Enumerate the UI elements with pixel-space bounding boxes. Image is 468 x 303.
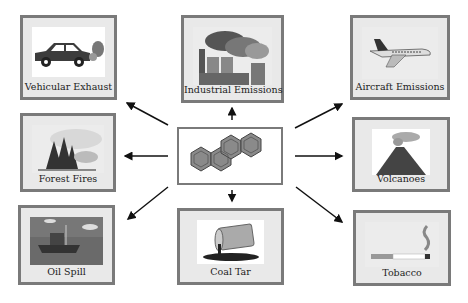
source-box-vehicular-exhaust: Vehicular Exhaust <box>20 15 117 100</box>
source-box-oil-spill: Oil Spill <box>18 205 115 285</box>
oil-ship-icon <box>30 217 103 265</box>
source-label: Volcanoes <box>355 173 447 184</box>
source-label: Aircraft Emissions <box>353 81 447 92</box>
airplane-icon <box>362 27 438 79</box>
source-box-forest-fires: Forest Fires <box>20 113 116 192</box>
source-label: Coal Tar <box>180 266 281 277</box>
source-box-tobacco: Tobacco <box>353 210 451 286</box>
source-label: Tobacco <box>356 267 448 278</box>
center-molecule-box <box>177 127 283 185</box>
arrow-to-oil-spill <box>128 187 168 219</box>
source-label: Oil Spill <box>21 266 112 277</box>
forest-fire-icon <box>32 125 104 173</box>
source-label: Vehicular Exhaust <box>23 81 114 92</box>
source-box-coal-tar: Coal Tar <box>177 208 284 285</box>
source-label: Industrial Emissions <box>184 84 281 95</box>
factory-smoke-icon <box>193 27 272 85</box>
molecule-icon <box>179 129 281 183</box>
car-exhaust-icon <box>32 27 105 77</box>
barrel-spill-icon <box>197 220 264 264</box>
arrow-to-tobacco <box>296 187 342 222</box>
source-box-aircraft-emissions: Aircraft Emissions <box>350 15 450 100</box>
arrow-to-aircraft-emissions <box>295 104 342 128</box>
source-box-industrial-emissions: Industrial Emissions <box>181 15 284 103</box>
source-box-volcanoes: Volcanoes <box>352 117 450 192</box>
source-label: Forest Fires <box>23 173 113 184</box>
arrow-to-vehicular-exhaust <box>127 103 168 125</box>
cigarette-icon <box>365 222 439 267</box>
volcano-icon <box>372 129 430 175</box>
